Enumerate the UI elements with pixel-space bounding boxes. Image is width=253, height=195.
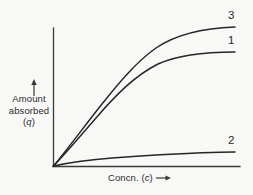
curve-label-3: 3: [228, 10, 235, 22]
y-axis-label-line2: absorbed: [4, 105, 54, 117]
curve-series-1: [54, 52, 236, 166]
curve-label-2: 2: [228, 135, 235, 147]
curve-series-2: [54, 152, 236, 166]
x-paren-close: ): [150, 172, 153, 183]
x-axis-label: Concn. (c): [108, 172, 172, 184]
curve-series-3: [54, 27, 236, 166]
x-axis-label-text: Concn.: [108, 172, 141, 183]
right-arrow-icon: [156, 173, 172, 184]
y-axis-label: Amount absorbed (q): [4, 93, 54, 128]
y-axis-label-line1: Amount: [4, 93, 54, 105]
curve-label-1: 1: [228, 35, 235, 47]
y-paren-close: ): [32, 116, 35, 127]
adsorption-isotherm-figure: 3 1 2 Amount absorbed (q) Concn. (c): [0, 0, 253, 195]
y-axis-label-symbol: (q): [4, 116, 54, 128]
